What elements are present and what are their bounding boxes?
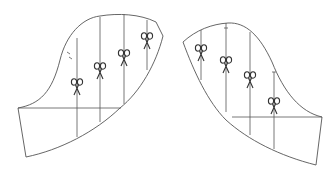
left-sleeve-piece [18, 14, 163, 157]
left-notch-mark [67, 52, 72, 59]
diagram-canvas [0, 0, 333, 179]
right-sleeve-piece [183, 23, 322, 165]
